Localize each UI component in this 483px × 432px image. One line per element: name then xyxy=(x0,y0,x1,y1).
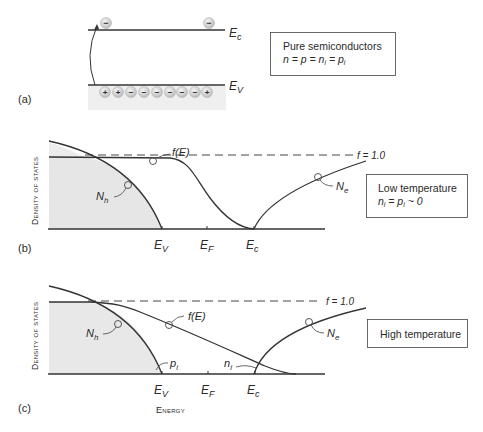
svg-text:−: − xyxy=(103,18,108,28)
ne-curve xyxy=(254,308,366,374)
svg-text:−: − xyxy=(180,88,185,97)
tick-ef: EF xyxy=(201,383,215,399)
ev-label: EV xyxy=(229,79,244,95)
panel-b: f = 1.0 f(E) Nh Ne EV EF Ec Density of s… xyxy=(18,141,468,254)
arrow-head-icon xyxy=(94,24,99,30)
box-equation: n = p = ni = pi xyxy=(283,53,346,66)
box-title: High temperature xyxy=(380,328,461,340)
box-equation: ni = pi ~ 0 xyxy=(378,195,423,208)
excitation-arrow xyxy=(90,26,97,85)
panel-c-label: (c) xyxy=(18,402,31,414)
f-marker xyxy=(150,158,157,165)
f-unity-label: f = 1.0 xyxy=(357,150,386,161)
ne-marker xyxy=(306,319,313,326)
f-unity-label: f = 1.0 xyxy=(326,296,355,307)
box-title: Pure semiconductors xyxy=(283,40,382,52)
box-title: Low temperature xyxy=(378,182,457,194)
valence-carriers: + + − − − − − − + xyxy=(100,87,213,98)
panel-b-label: (b) xyxy=(18,242,31,254)
svg-text:−: − xyxy=(193,88,198,97)
tick-ec: Ec xyxy=(246,238,259,254)
pure-semiconductor-box: Pure semiconductors n = p = ni = pi xyxy=(271,33,396,76)
pi-label: pi xyxy=(169,357,178,372)
ne-curve xyxy=(254,161,366,229)
svg-text:−: − xyxy=(206,18,211,28)
low-temperature-box: Low temperature ni = pi ~ 0 xyxy=(367,175,468,218)
y-axis-label-b: Density of states xyxy=(30,157,40,225)
tick-ef: EF xyxy=(200,238,214,254)
ne-label: Ne xyxy=(336,180,349,195)
semiconductor-diagram: − − + + − − − − − − + Ec EV (a) Pure sem… xyxy=(0,0,483,432)
svg-text:−: − xyxy=(168,88,173,97)
panel-a: − − + + − − − − − − + Ec EV (a) Pure sem… xyxy=(18,18,396,111)
conduction-electron: − xyxy=(204,18,215,29)
conduction-electron: − xyxy=(101,18,112,29)
svg-text:−: − xyxy=(155,88,160,97)
tick-ev: EV xyxy=(154,238,169,254)
panel-a-label: (a) xyxy=(18,93,31,105)
high-temperature-box: High temperature xyxy=(368,320,468,348)
svg-text:+: + xyxy=(116,88,121,97)
ni-label: ni xyxy=(224,357,232,372)
svg-text:−: − xyxy=(142,88,147,97)
ec-label: Ec xyxy=(229,26,242,42)
f-label: f(E) xyxy=(172,146,190,158)
panel-c: f = 1.0 Nh f(E) Ne pi ni EV EF Ec Energy… xyxy=(18,286,468,415)
f-label: f(E) xyxy=(188,310,206,322)
tick-ec: Ec xyxy=(247,383,260,399)
y-axis-label-c: Density of states xyxy=(30,302,40,370)
x-axis-label: Energy xyxy=(156,405,185,415)
svg-text:+: + xyxy=(103,88,108,97)
tick-ev: EV xyxy=(154,383,169,399)
hole-states-shade xyxy=(49,302,162,374)
svg-text:−: − xyxy=(129,88,134,97)
ne-label: Ne xyxy=(327,327,340,342)
svg-text:+: + xyxy=(205,88,210,97)
